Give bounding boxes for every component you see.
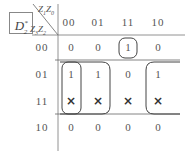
row-header: 10 bbox=[30, 121, 54, 133]
kmap-cell: 0 bbox=[118, 68, 138, 80]
col-header: 01 bbox=[86, 16, 110, 28]
row-header: 00 bbox=[30, 41, 54, 53]
column-variables: Z1Z0 bbox=[38, 4, 54, 16]
row-variables: Z3Z2 bbox=[30, 24, 46, 36]
kmap-cell: 1 bbox=[88, 68, 108, 80]
kmap-cell-dontcare: × bbox=[118, 94, 138, 108]
col-var-b-sub: 0 bbox=[51, 10, 54, 16]
row-header: 11 bbox=[30, 95, 54, 107]
col-header: 10 bbox=[146, 16, 170, 28]
kmap-cell: 0 bbox=[88, 121, 108, 133]
kmap-cell: 0 bbox=[148, 41, 168, 53]
kmap-cell-dontcare: × bbox=[148, 94, 168, 108]
kmap-cell: 0 bbox=[148, 121, 168, 133]
row-header: 01 bbox=[30, 68, 54, 80]
kmap-cell-dontcare: × bbox=[61, 94, 81, 108]
kmap-cell: 1 bbox=[118, 41, 138, 53]
function-name: D bbox=[15, 18, 24, 33]
kmap-cell: 0 bbox=[118, 121, 138, 133]
col-header: 11 bbox=[116, 16, 140, 28]
function-sub: 2 bbox=[24, 28, 28, 36]
function-sup: * bbox=[24, 19, 28, 27]
kmap-cell: 0 bbox=[61, 121, 81, 133]
kmap-cell: 1 bbox=[148, 68, 168, 80]
kmap-cell-dontcare: × bbox=[88, 94, 108, 108]
col-header: 00 bbox=[57, 16, 81, 28]
row-var-b-sub: 2 bbox=[43, 30, 46, 36]
kmap-cell: 0 bbox=[88, 41, 108, 53]
kmap-cell: 0 bbox=[61, 41, 81, 53]
kmap-cell: 1 bbox=[61, 68, 81, 80]
